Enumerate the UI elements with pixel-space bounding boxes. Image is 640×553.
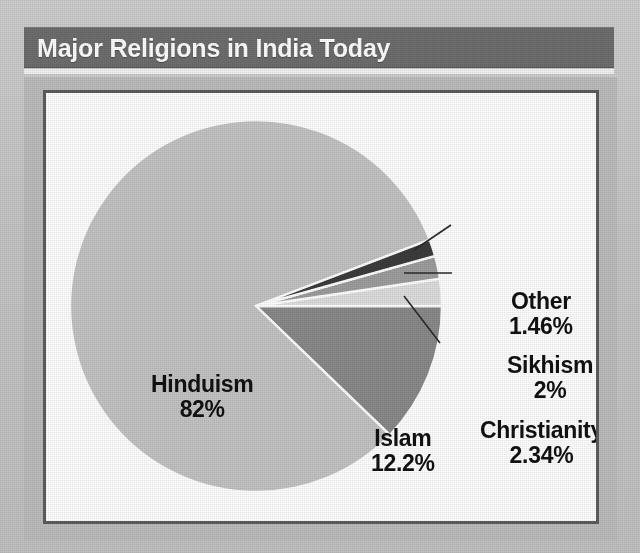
pie-label-islam: Islam 12.2%	[371, 426, 435, 476]
page-title: Major Religions in India Today	[37, 33, 390, 62]
pie-label-christianity: Christianity 2.34%	[480, 418, 596, 468]
pie-label-hinduism-value: 82%	[151, 397, 253, 422]
chart-plot-area: Hinduism 82% Islam 12.2% Other 1.46% Sik…	[46, 93, 596, 521]
chart-title-bar: Major Religions in India Today	[24, 27, 614, 68]
pie-label-other: Other 1.46%	[509, 289, 573, 339]
title-underline	[24, 69, 614, 74]
pie-label-sikhism-value: 2%	[507, 378, 593, 403]
pie-label-other-name: Other	[509, 289, 573, 314]
pie-label-other-value: 1.46%	[509, 314, 573, 339]
pie-label-christianity-name: Christianity	[480, 418, 596, 443]
pie-label-islam-value: 12.2%	[371, 451, 435, 476]
pie-label-sikhism: Sikhism 2%	[507, 353, 593, 403]
pie-label-sikhism-name: Sikhism	[507, 353, 593, 378]
pie-label-islam-name: Islam	[371, 426, 435, 451]
pie-label-hinduism: Hinduism 82%	[151, 372, 253, 422]
pie-label-christianity-value: 2.34%	[480, 443, 596, 468]
pie-label-hinduism-name: Hinduism	[151, 372, 253, 397]
